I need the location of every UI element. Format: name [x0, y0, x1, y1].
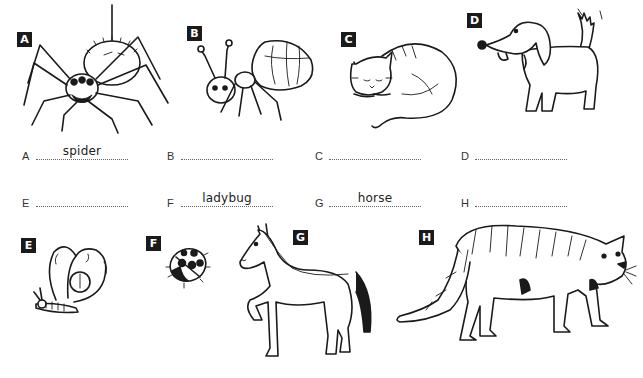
- dog-illustration: [476, 5, 611, 117]
- answer-e: E: [22, 190, 132, 210]
- answer-text-g[interactable]: horse: [329, 191, 421, 205]
- answer-c: C: [315, 143, 425, 163]
- answer-b: B: [167, 143, 277, 163]
- answer-a: A spider: [22, 143, 132, 163]
- answer-d: D: [461, 143, 571, 163]
- answer-text-f[interactable]: ladybug: [181, 191, 273, 205]
- answer-line-c[interactable]: [329, 159, 421, 160]
- answer-letter-d: D: [461, 150, 469, 162]
- spider-illustration: [20, 5, 170, 135]
- answer-letter-b: B: [167, 150, 174, 162]
- cat-illustration: [352, 34, 462, 129]
- answer-line-a[interactable]: [36, 159, 128, 160]
- answer-letter-h: H: [461, 197, 469, 209]
- answer-line-f[interactable]: [181, 206, 273, 207]
- answer-h: H: [461, 190, 571, 210]
- picture-label-f: F: [146, 236, 161, 251]
- answer-line-b[interactable]: [181, 159, 273, 160]
- answer-line-e[interactable]: [36, 206, 128, 207]
- answer-line-h[interactable]: [475, 206, 567, 207]
- answer-letter-g: G: [315, 197, 324, 209]
- answer-g: G horse: [315, 190, 425, 210]
- answer-line-g[interactable]: [329, 206, 421, 207]
- answer-letter-f: F: [167, 197, 174, 209]
- answer-line-d[interactable]: [475, 159, 567, 160]
- horse-illustration: [238, 220, 386, 372]
- answer-text-a[interactable]: spider: [36, 144, 128, 158]
- answer-letter-e: E: [22, 197, 29, 209]
- answer-letter-c: C: [315, 150, 323, 162]
- answer-f: F ladybug: [167, 190, 277, 210]
- answer-letter-a: A: [22, 150, 29, 162]
- ladybug-illustration: [162, 243, 212, 291]
- tiger-illustration: [396, 220, 636, 338]
- butterfly-illustration: [28, 242, 113, 317]
- ant-illustration: [195, 32, 320, 127]
